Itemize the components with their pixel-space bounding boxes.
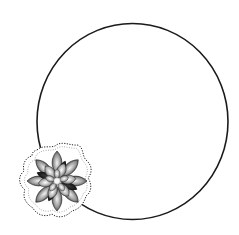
circle-frame-graphic bbox=[0, 0, 239, 235]
flower-icon bbox=[20, 143, 92, 217]
